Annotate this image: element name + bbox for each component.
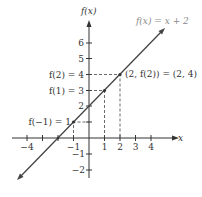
- tick-label-yn2: −2: [72, 165, 85, 175]
- tick-label-x4: 4: [148, 142, 154, 152]
- point-annotation: (2, f(2)) = (2, 4): [125, 69, 197, 79]
- tick-label-y6: 6: [78, 38, 84, 48]
- tick-label-y5: 5: [78, 54, 84, 64]
- y-axis-arrow-icon: [87, 20, 92, 27]
- tick-label-xn1: −1: [67, 142, 80, 152]
- equation-label: f(x) = x + 2: [135, 16, 189, 26]
- function-graph: f(x) x f(x) = x + 2 (2, f(2)) = (2, 4) f…: [0, 0, 202, 197]
- guide-xn1: [74, 122, 90, 138]
- x-intercept-point: [57, 137, 59, 139]
- function-line: [20, 31, 162, 177]
- y-axis-label: f(x): [80, 6, 97, 16]
- x-axis-label: x: [178, 133, 183, 143]
- tick-label-x1: 1: [102, 142, 108, 152]
- tick-label-xn4: −4: [20, 142, 34, 152]
- point-2-4: [118, 73, 121, 76]
- fneg1-label: f(−1) = 1: [28, 117, 71, 127]
- tick-label-y2: 2: [78, 101, 84, 111]
- tick-label-x2: 2: [117, 142, 123, 152]
- f2-label: f(2) = 4: [49, 70, 84, 80]
- tick-label-x3: 3: [133, 142, 139, 152]
- point-1-3: [103, 89, 106, 92]
- f1-label: f(1) = 3: [49, 86, 84, 96]
- point-neg1-1: [72, 120, 75, 123]
